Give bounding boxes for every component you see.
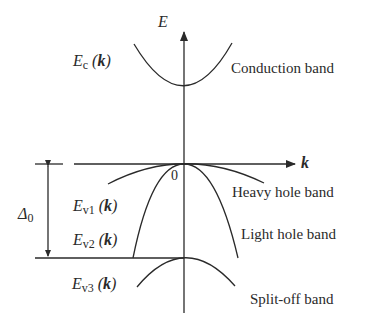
band-name-light-hole: Light hole band: [241, 226, 336, 243]
band-symbol-ev2: Ev2 (k): [73, 231, 117, 252]
band-name-conduction: Conduction band: [231, 60, 334, 77]
light-hole-band-curve: [133, 164, 238, 258]
band-diagram-canvas: [0, 0, 373, 327]
split-off-band-curve: [137, 258, 235, 287]
band-name-split-off: Split-off band: [250, 291, 333, 308]
heavy-hole-band-curve: [108, 164, 264, 184]
conduction-band-curve: [134, 43, 232, 86]
band-symbol-ev3: Ev3 (k): [72, 275, 116, 296]
energy-axis-label: E: [158, 13, 168, 31]
band-name-heavy-hole: Heavy hole band: [232, 184, 334, 201]
band-symbol-ev1: Ev1 (k): [73, 197, 117, 218]
origin-label: 0: [171, 168, 178, 184]
band-symbol-ec: Ec (k): [73, 52, 111, 73]
delta0-label: Δ0: [18, 205, 33, 226]
k-axis-label: k: [301, 154, 309, 172]
